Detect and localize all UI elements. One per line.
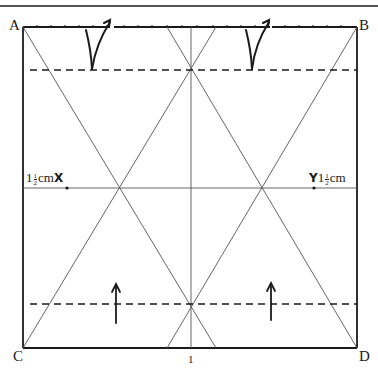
right-measurement-label: Y112cm [309, 171, 346, 186]
measure-whole: 1 [26, 170, 33, 185]
measure-whole: 1 [318, 170, 325, 185]
corner-label-d: D [359, 349, 370, 364]
measure-fraction: 12 [34, 173, 38, 186]
measure-unit: cm [330, 170, 346, 185]
folding-diagram [0, 0, 378, 372]
push-up-arrow-right-icon [267, 283, 275, 320]
left-measurement-label: 112cmX [26, 171, 63, 186]
measure-fraction: 12 [325, 173, 329, 186]
square-outline [23, 27, 357, 348]
y-mark: Y [309, 171, 318, 185]
dashed-fold-lines [30, 70, 357, 304]
measure-unit: cm [38, 170, 54, 185]
corner-label-c: C [13, 349, 23, 364]
y-point-dot [312, 186, 315, 189]
bottom-center-label: 1 [188, 354, 194, 365]
crease-lines [23, 27, 357, 348]
corner-label-a: A [9, 18, 20, 33]
corner-label-b: B [359, 18, 369, 33]
x-mark: X [54, 171, 63, 185]
x-point-dot [65, 186, 68, 189]
